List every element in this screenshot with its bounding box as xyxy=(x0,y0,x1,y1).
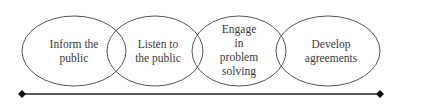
stage-label-develop: Develop agreements xyxy=(305,37,357,65)
stage-label-engage: Engage in problem solving xyxy=(220,22,258,78)
stage-label-listen: Listen to the public xyxy=(135,37,181,65)
axis-left-diamond-icon xyxy=(18,90,26,98)
axis-right-diamond-icon xyxy=(376,90,384,98)
stage-label-inform: Inform the public xyxy=(50,37,99,65)
